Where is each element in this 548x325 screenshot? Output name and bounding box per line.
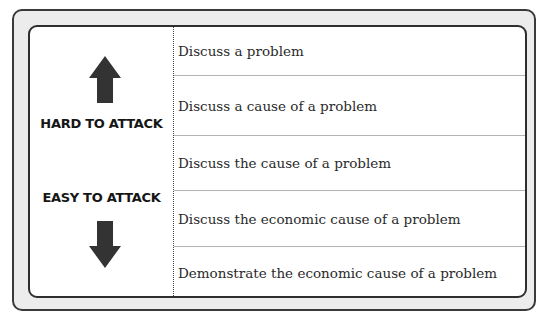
arrow-down-icon	[88, 221, 122, 269]
claims-list: Discuss a problem Discuss a cause of a p…	[174, 27, 525, 296]
list-item: Discuss a problem	[174, 27, 525, 76]
list-item: Discuss the economic cause of a problem	[174, 191, 525, 247]
hard-to-attack-label: HARD TO ATTACK	[30, 116, 173, 131]
list-item: Demonstrate the economic cause of a prob…	[174, 247, 525, 298]
list-item: Discuss the cause of a problem	[174, 136, 525, 191]
arrow-up-icon	[88, 56, 122, 104]
list-item: Discuss a cause of a problem	[174, 76, 525, 136]
diagram-panel: HARD TO ATTACK EASY TO ATTACK Discuss a …	[28, 25, 527, 298]
difficulty-scale: HARD TO ATTACK EASY TO ATTACK	[30, 27, 174, 296]
easy-to-attack-label: EASY TO ATTACK	[30, 190, 173, 205]
